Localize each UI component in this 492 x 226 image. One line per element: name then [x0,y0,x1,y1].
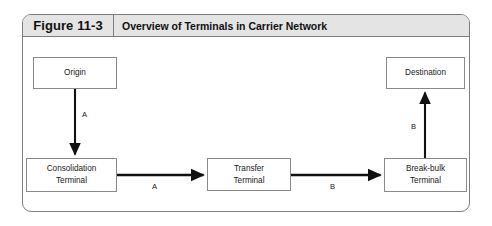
node-destination-label-line-1: Destination [405,67,446,79]
edge-label-transfer-to-breakbulk: B [330,182,335,191]
node-consolidation-label-line-1: Consolidation [47,163,97,175]
figure-container: Figure 11-3 Overview of Terminals in Car… [0,0,492,226]
header-divider [113,15,114,36]
figure-title: Overview of Terminals in Carrier Network [122,15,327,36]
node-origin: Origin [33,57,117,89]
node-breakbulk-label-line-2: Terminal [410,175,441,187]
node-consolidation-label-line-2: Terminal [56,175,87,187]
node-origin-label-line-1: Origin [64,67,86,79]
node-transfer-terminal: Transfer Terminal [207,158,291,191]
node-transfer-label-line-1: Transfer [234,163,264,175]
node-destination: Destination [386,57,465,89]
figure-number-label: Figure 11-3 [23,15,113,36]
edge-label-breakbulk-to-destination: B [411,122,416,131]
node-consolidation-terminal: Consolidation Terminal [26,158,117,192]
node-breakbulk-label-line-1: Break-bulk [406,163,445,175]
node-break-bulk-terminal: Break-bulk Terminal [384,158,467,192]
edge-label-origin-to-consolidation: A [82,110,87,119]
node-transfer-label-line-2: Terminal [234,175,265,187]
edge-label-consolidation-to-transfer: A [152,182,157,191]
